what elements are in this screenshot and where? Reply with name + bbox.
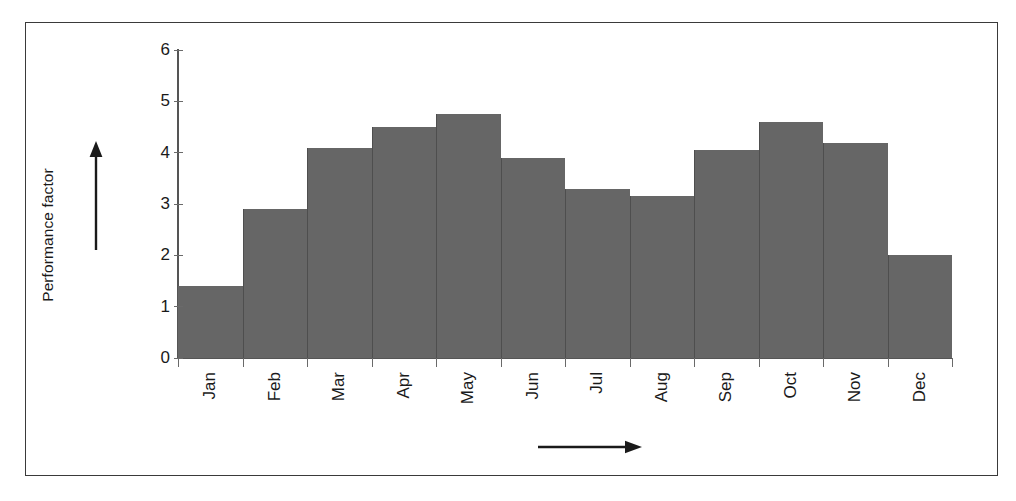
bar-jun bbox=[501, 158, 566, 358]
up-arrow-icon bbox=[86, 140, 106, 250]
x-label-jan: Jan bbox=[178, 372, 242, 430]
bar-feb bbox=[243, 209, 308, 358]
bar-jan bbox=[178, 286, 243, 358]
bar-dec bbox=[888, 255, 953, 358]
x-label-text: Mar bbox=[329, 372, 349, 401]
chart-figure: Performance factor 0123456 JanFebMarAprM… bbox=[0, 0, 1016, 501]
x-tick-mark bbox=[759, 358, 760, 367]
y-tick-mark bbox=[174, 306, 183, 307]
x-tick-mark bbox=[243, 358, 244, 367]
x-label-text: Nov bbox=[845, 372, 865, 402]
y-tick-mark bbox=[174, 255, 183, 256]
bar-jul bbox=[565, 189, 630, 358]
x-tick-mark bbox=[372, 358, 373, 367]
x-label-feb: Feb bbox=[243, 372, 307, 430]
x-tick-mark bbox=[436, 358, 437, 367]
y-tick-mark bbox=[174, 101, 183, 102]
x-label-text: Sep bbox=[716, 372, 736, 402]
y-tick-label: 1 bbox=[161, 296, 170, 317]
x-tick-mark bbox=[952, 358, 953, 367]
x-label-text: Jan bbox=[200, 372, 220, 399]
x-tick-mark bbox=[307, 358, 308, 367]
x-label-mar: Mar bbox=[307, 372, 371, 430]
x-tick-mark bbox=[888, 358, 889, 367]
y-axis-direction-arrow bbox=[86, 140, 106, 250]
x-tick-mark bbox=[565, 358, 566, 367]
bar-apr bbox=[372, 127, 437, 358]
y-axis-title-text: Performance factor bbox=[39, 168, 57, 302]
x-label-may: May bbox=[436, 372, 500, 430]
y-tick-mark bbox=[174, 50, 183, 51]
x-tick-mark bbox=[694, 358, 695, 367]
x-label-aug: Aug bbox=[630, 372, 694, 430]
y-axis-title: Performance factor bbox=[33, 120, 63, 350]
y-tick-mark bbox=[174, 204, 183, 205]
x-tick-mark bbox=[178, 358, 179, 367]
x-tick-mark bbox=[823, 358, 824, 367]
bar-sep bbox=[694, 150, 759, 358]
bar-may bbox=[436, 114, 501, 358]
bar-oct bbox=[759, 122, 824, 358]
x-label-sep: Sep bbox=[694, 372, 758, 430]
y-tick-label: 5 bbox=[161, 90, 170, 111]
x-label-nov: Nov bbox=[823, 372, 887, 430]
x-label-text: Oct bbox=[781, 372, 801, 398]
x-axis-direction-arrow bbox=[538, 437, 643, 457]
x-label-jun: Jun bbox=[501, 372, 565, 430]
x-label-text: Dec bbox=[910, 372, 930, 402]
x-tick-mark bbox=[501, 358, 502, 367]
y-tick-label: 0 bbox=[161, 347, 170, 368]
x-label-text: Feb bbox=[265, 372, 285, 401]
x-label-apr: Apr bbox=[372, 372, 436, 430]
y-tick-label: 2 bbox=[161, 244, 170, 265]
x-label-text: Jun bbox=[523, 372, 543, 399]
x-label-text: May bbox=[458, 372, 478, 404]
x-label-text: Aug bbox=[652, 372, 672, 402]
x-label-dec: Dec bbox=[888, 372, 952, 430]
bar-nov bbox=[823, 143, 888, 358]
y-tick-label: 3 bbox=[161, 193, 170, 214]
right-arrow-icon bbox=[538, 437, 643, 457]
x-label-jul: Jul bbox=[565, 372, 629, 430]
y-tick-mark bbox=[174, 152, 183, 153]
bar-aug bbox=[630, 196, 695, 358]
bar-mar bbox=[307, 148, 372, 358]
plot-area: 0123456 bbox=[178, 50, 952, 358]
bar-series bbox=[178, 50, 952, 358]
y-tick-label: 4 bbox=[161, 142, 170, 163]
x-label-text: Apr bbox=[394, 372, 414, 398]
y-tick-label: 6 bbox=[161, 39, 170, 60]
x-label-text: Jul bbox=[587, 372, 607, 394]
x-tick-mark bbox=[630, 358, 631, 367]
x-label-oct: Oct bbox=[759, 372, 823, 430]
